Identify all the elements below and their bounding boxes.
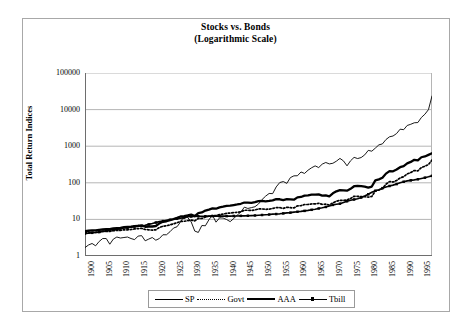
chart-title: Stocks vs. Bonds (Logarithmic Scale) [0, 22, 471, 45]
y-tick-label: 1 [20, 252, 80, 260]
legend-line [247, 298, 275, 300]
series-marker-tbill [424, 176, 427, 179]
y-tick-label: 10 [20, 215, 80, 223]
series-marker-tbill [112, 229, 115, 232]
series-marker-tbill [353, 198, 356, 201]
series-marker-tbill [254, 214, 256, 217]
series-marker-tbill [85, 232, 86, 235]
legend-line [155, 299, 183, 300]
series-marker-tbill [261, 214, 264, 217]
series-line-govt [85, 160, 432, 233]
series-marker-tbill [204, 215, 207, 218]
series-marker-tbill [381, 187, 384, 190]
series-marker-tbill [325, 206, 328, 209]
series-marker-tbill [91, 232, 94, 235]
series-marker-tbill [339, 202, 342, 205]
legend-entry-govt[interactable]: Govt [197, 291, 247, 307]
plot-area [85, 73, 432, 256]
series-marker-tbill [225, 215, 228, 218]
series-marker-tbill [98, 231, 101, 234]
series-marker-tbill [275, 213, 278, 216]
x-tick-label: 1980 [371, 261, 379, 295]
y-tick-label: 100000 [20, 69, 80, 77]
series-marker-tbill [140, 225, 143, 228]
legend-swatch-aaa [247, 294, 275, 304]
x-tick-label: 1990 [407, 261, 415, 295]
series-marker-tbill [218, 215, 221, 218]
series-marker-tbill [240, 215, 243, 218]
series-marker-tbill [211, 215, 214, 218]
series-marker-tbill [332, 204, 335, 207]
series-marker-tbill [395, 183, 398, 186]
series-marker-tbill [190, 215, 193, 218]
series-marker-tbill [388, 185, 391, 188]
series-marker-tbill [303, 210, 306, 213]
legend-swatch-tbill [299, 294, 327, 304]
legend-swatch-govt [197, 294, 225, 304]
series-marker-tbill [155, 221, 158, 224]
legend-label: Tbill [329, 294, 346, 304]
legend-entry-tbill[interactable]: Tbill [299, 291, 349, 307]
x-tick-label: 1900 [88, 261, 96, 295]
series-marker-tbill [197, 215, 200, 218]
series-marker-tbill [346, 200, 349, 203]
series-marker-tbill [119, 227, 122, 230]
series-marker-tbill [296, 210, 299, 213]
series-marker-tbill [374, 190, 377, 193]
y-tick-label: 1000 [20, 142, 80, 150]
series-marker-tbill [410, 179, 413, 182]
series-marker-tbill [232, 215, 235, 218]
legend-label: SP [185, 294, 194, 304]
chart-figure: Stocks vs. Bonds (Logarithmic Scale) Tot… [0, 0, 471, 328]
series-marker-tbill [310, 209, 313, 212]
y-tick-label: 100 [20, 179, 80, 187]
series-marker-tbill [402, 180, 405, 183]
series-marker-tbill [367, 193, 370, 196]
x-tick-label: 1995 [424, 261, 432, 295]
chart-legend: SPGovtAAATbill [148, 290, 355, 308]
x-tick-label: 1910 [123, 261, 131, 295]
series-marker-tbill [268, 213, 271, 216]
y-tick-label: 10000 [20, 106, 80, 114]
x-tick-label: 1985 [389, 261, 397, 295]
series-marker-tbill [417, 178, 420, 181]
legend-marker [311, 297, 314, 300]
series-marker-tbill [289, 211, 292, 214]
series-marker-tbill [169, 218, 172, 221]
series-marker-tbill [282, 212, 285, 215]
legend-entry-aaa[interactable]: AAA [247, 291, 298, 307]
chart-title-main: Stocks vs. Bonds [0, 22, 471, 34]
legend-label: Govt [227, 294, 244, 304]
series-marker-tbill [133, 225, 136, 228]
legend-label: AAA [277, 294, 295, 304]
series-marker-tbill [162, 220, 165, 223]
legend-swatch-sp [155, 294, 183, 304]
series-marker-tbill [360, 196, 363, 199]
legend-line [197, 299, 225, 300]
series-marker-tbill [126, 227, 129, 230]
chart-title-subtitle: (Logarithmic Scale) [0, 34, 471, 46]
series-marker-tbill [247, 214, 250, 217]
series-marker-tbill [183, 216, 186, 219]
series-marker-tbill [105, 229, 108, 232]
series-marker-tbill [147, 223, 150, 226]
plot-canvas [85, 73, 432, 256]
series-marker-tbill [176, 217, 179, 220]
series-marker-tbill [317, 207, 320, 210]
series-marker-tbill [431, 175, 432, 178]
x-tick-label: 1905 [106, 261, 114, 295]
legend-entry-sp[interactable]: SP [155, 291, 197, 307]
